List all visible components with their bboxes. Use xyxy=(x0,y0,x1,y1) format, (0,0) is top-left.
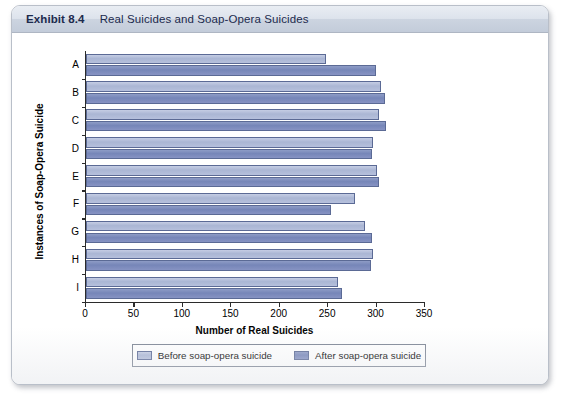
bar-after xyxy=(86,149,372,160)
bar-before xyxy=(86,221,365,232)
bar-row: F xyxy=(86,190,425,218)
bar-before xyxy=(86,193,355,204)
bar-after xyxy=(86,93,385,104)
x-axis-tick-label: 250 xyxy=(319,308,336,319)
bar-after xyxy=(86,260,371,271)
bar-chart: Instances of Soap-Opera Suicide ABCDEFGH… xyxy=(12,33,549,385)
y-axis-category-label: I xyxy=(46,282,86,293)
bar-after xyxy=(86,177,379,188)
x-axis-tick-label: 50 xyxy=(128,308,139,319)
legend-item-before: Before soap-opera suicide xyxy=(137,350,272,361)
plot-area: ABCDEFGHI xyxy=(85,51,425,303)
bar-row: D xyxy=(86,135,425,163)
bar-before xyxy=(86,54,326,65)
bar-row: H xyxy=(86,246,425,274)
bar-before xyxy=(86,165,377,176)
x-axis-tick xyxy=(376,302,377,307)
x-axis-tick-label: 350 xyxy=(416,308,433,319)
y-axis-category-label: E xyxy=(46,171,86,182)
x-axis-tick-label: 150 xyxy=(222,308,239,319)
x-axis-tick-label: 100 xyxy=(174,308,191,319)
chart-legend: Before soap-opera suicide After soap-ope… xyxy=(132,344,426,367)
exhibit-card: Exhibit 8.4 Real Suicides and Soap-Opera… xyxy=(11,5,549,385)
exhibit-header: Exhibit 8.4 Real Suicides and Soap-Opera… xyxy=(12,6,548,33)
y-axis-category-label: F xyxy=(46,198,86,209)
legend-label-before: Before soap-opera suicide xyxy=(158,350,272,361)
bar-before xyxy=(86,249,373,260)
x-axis-tick xyxy=(327,302,328,307)
x-axis-title: Number of Real Suicides xyxy=(85,325,424,336)
y-axis-title: Instances of Soap-Opera Suicide xyxy=(34,62,45,302)
x-axis-tick-label: 0 xyxy=(82,308,88,319)
y-axis-category-label: C xyxy=(46,115,86,126)
bar-row: A xyxy=(86,51,425,79)
bar-after xyxy=(86,205,331,216)
y-axis-category-label: D xyxy=(46,143,86,154)
x-axis-tick xyxy=(230,302,231,307)
exhibit-title: Real Suicides and Soap-Opera Suicides xyxy=(100,13,309,25)
bar-rows: ABCDEFGHI xyxy=(86,51,425,302)
legend-swatch-after-icon xyxy=(294,351,309,360)
x-axis-tick xyxy=(424,302,425,307)
x-axis-tick xyxy=(85,302,86,307)
y-axis-category-label: B xyxy=(46,87,86,98)
bar-after xyxy=(86,65,376,76)
x-axis-tick xyxy=(133,302,134,307)
legend-item-after: After soap-opera suicide xyxy=(294,350,421,361)
x-axis-tick xyxy=(279,302,280,307)
bar-before xyxy=(86,137,373,148)
bar-before xyxy=(86,81,381,92)
bar-after xyxy=(86,233,372,244)
exhibit-label: Exhibit 8.4 xyxy=(26,13,85,25)
x-axis-tick xyxy=(182,302,183,307)
x-axis-tick-label: 300 xyxy=(367,308,384,319)
bar-before xyxy=(86,277,338,288)
exhibit-body: Instances of Soap-Opera Suicide ABCDEFGH… xyxy=(12,33,548,384)
y-axis-category-label: G xyxy=(46,226,86,237)
y-axis-category-label: H xyxy=(46,254,86,265)
bar-before xyxy=(86,109,379,120)
bar-after xyxy=(86,288,342,299)
y-axis-category-label: A xyxy=(46,59,86,70)
legend-label-after: After soap-opera suicide xyxy=(315,350,421,361)
bar-row: G xyxy=(86,218,425,246)
legend-swatch-before-icon xyxy=(137,351,152,360)
bar-after xyxy=(86,121,386,132)
x-axis-tick-label: 200 xyxy=(270,308,287,319)
bar-row: C xyxy=(86,107,425,135)
bar-row: E xyxy=(86,163,425,191)
bar-row: I xyxy=(86,274,425,302)
bar-row: B xyxy=(86,79,425,107)
